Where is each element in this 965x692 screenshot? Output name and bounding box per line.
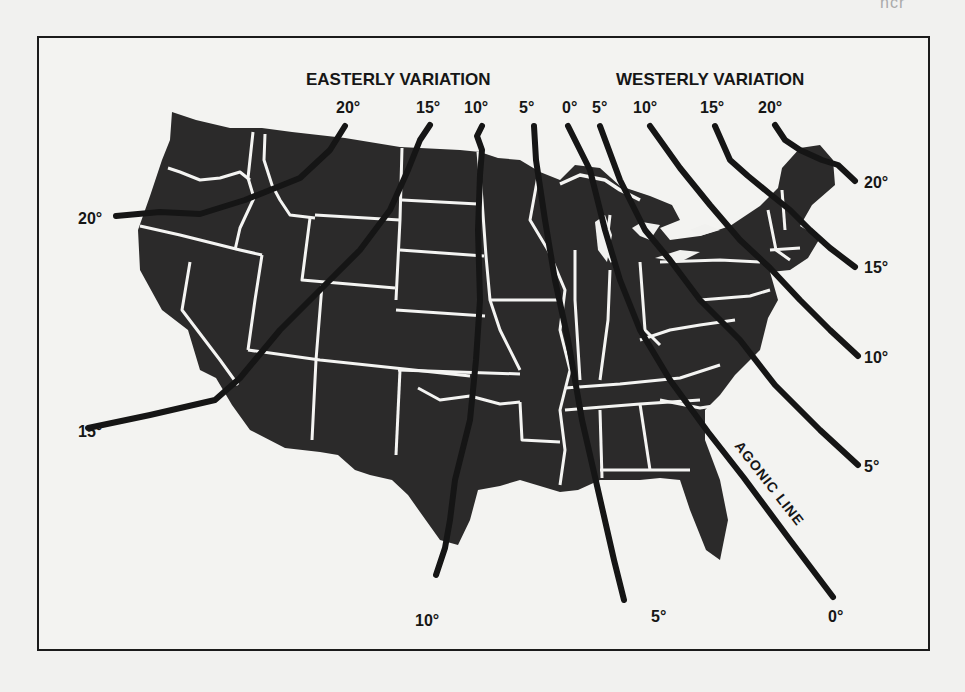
label-right-20W: 20° [864,174,888,191]
westerly-variation-heading: WESTERLY VARIATION [616,70,804,89]
label-bottom-5E: 5° [651,608,666,625]
label-bottom-0: 0° [828,608,843,625]
top-degree-labels: 20° 15° 10° 5° 0° 5° 10° 15° 20° [336,99,782,116]
label-right-15W: 15° [864,259,888,276]
label-top-5E: 5° [519,99,534,116]
label-top-20W: 20° [758,99,782,116]
label-bottom-10E: 10° [415,612,439,629]
easterly-variation-heading: EASTERLY VARIATION [306,70,491,89]
label-left-20E: 20° [78,210,102,227]
label-top-20E: 20° [336,99,360,116]
label-top-10W: 10° [633,99,657,116]
isogonic-map: EASTERLY VARIATION WESTERLY VARIATION 20… [0,0,965,692]
label-top-15E: 15° [416,99,440,116]
label-top-15W: 15° [700,99,724,116]
label-top-10E: 10° [464,99,488,116]
label-top-0: 0° [562,99,577,116]
us-landmass [138,112,835,560]
label-top-5W: 5° [592,99,607,116]
label-right-10W: 10° [864,349,888,366]
label-right-5W: 5° [864,458,879,475]
label-left-15E: 15° [78,423,102,440]
